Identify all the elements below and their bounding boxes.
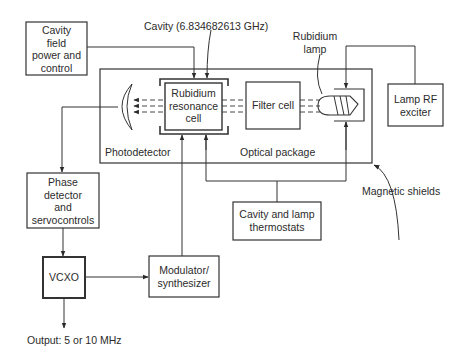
photodetector-label: Photodetector bbox=[105, 146, 170, 159]
vcxo-label: VCXO bbox=[43, 271, 85, 284]
phase-detector-label: Phase detector and servocontrols bbox=[27, 176, 99, 226]
lamp-housing bbox=[334, 89, 364, 121]
output-label: Output: 5 or 10 MHz bbox=[27, 334, 122, 347]
lamp-rf-label: Lamp RF exciter bbox=[388, 93, 443, 118]
rubidium-lamp-label: Rubidium lamp bbox=[290, 30, 340, 55]
rubidium-cell-label: Rubidium resonance cell bbox=[165, 87, 222, 125]
cavity-field-label: Cavity field power and control bbox=[26, 24, 87, 74]
thermostats-label: Cavity and lamp thermostats bbox=[233, 208, 321, 233]
rubidium-lamp bbox=[318, 96, 358, 115]
magnetic-shields-label: Magnetic shields bbox=[362, 185, 440, 198]
filter-cell-label: Filter cell bbox=[246, 99, 300, 112]
photodetector-lens bbox=[122, 84, 132, 130]
cavity-frequency-label: Cavity (6.834682613 GHz) bbox=[144, 20, 268, 33]
modulator-label: Modulator/ synthesizer bbox=[149, 264, 219, 289]
optical-package-label: Optical package bbox=[240, 146, 315, 159]
